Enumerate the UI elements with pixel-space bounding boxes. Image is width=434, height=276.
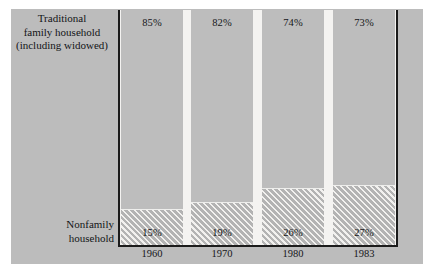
bar-segment-nonfamily-1983: 27%: [333, 185, 395, 245]
bar-value-nonfamily-1960: 15%: [121, 228, 183, 239]
x-axis-tick-labels: 1960 1970 1980 1983: [120, 249, 396, 265]
bar-segment-nonfamily-1970: 19%: [191, 202, 253, 245]
x-tick-1983: 1983: [333, 249, 395, 260]
series-label-traditional-line3: (including widowed): [8, 39, 116, 53]
bar-segment-traditional-1960: 85%: [121, 10, 183, 210]
plot-area: 85% 15% 82% 19% 74% 26% 73%: [120, 10, 396, 245]
series-label-nonfamily: Nonfamily household: [8, 218, 116, 245]
axis-line-bottom: [118, 245, 398, 247]
series-label-traditional: Traditional family household (including …: [8, 12, 116, 53]
x-tick-1970: 1970: [191, 249, 253, 260]
stacked-bar-1960: 85% 15%: [121, 10, 183, 245]
series-label-nonfamily-line1: Nonfamily: [8, 218, 114, 232]
bar-segment-traditional-1980: 74%: [262, 10, 324, 189]
bar-value-nonfamily-1980: 26%: [262, 228, 324, 239]
bar-value-nonfamily-1983: 27%: [333, 228, 395, 239]
stacked-bar-1980: 74% 26%: [262, 10, 324, 245]
series-label-nonfamily-line2: household: [8, 232, 114, 246]
axis-line-left: [118, 10, 120, 247]
stacked-bar-1983: 73% 27%: [333, 10, 395, 245]
bar-value-traditional-1983: 73%: [333, 18, 395, 29]
bar-value-traditional-1960: 85%: [121, 18, 183, 29]
bar-segment-traditional-1970: 82%: [191, 10, 253, 203]
axis-line-right: [396, 10, 398, 247]
bar-segment-nonfamily-1960: 15%: [121, 209, 183, 245]
bar-segment-nonfamily-1980: 26%: [262, 188, 324, 245]
chart-figure: Traditional family household (including …: [0, 0, 434, 276]
stacked-bar-1970: 82% 19%: [191, 10, 253, 245]
series-label-traditional-line2: family household: [8, 26, 116, 40]
bar-value-nonfamily-1970: 19%: [191, 228, 253, 239]
x-tick-1960: 1960: [121, 249, 183, 260]
bar-segment-traditional-1983: 73%: [333, 10, 395, 186]
bar-value-traditional-1970: 82%: [191, 18, 253, 29]
bar-value-traditional-1980: 74%: [262, 18, 324, 29]
series-label-traditional-line1: Traditional: [8, 12, 116, 26]
x-tick-1980: 1980: [262, 249, 324, 260]
